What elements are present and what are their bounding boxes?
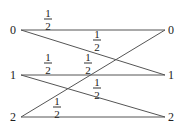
denominator: 2 [94,90,100,100]
left-node-1: 1 [10,69,16,81]
weight-label: 12 [93,29,101,52]
left-node-0: 0 [10,24,16,36]
weight-label: 12 [53,96,61,119]
left-node-2: 2 [10,111,16,123]
denominator: 2 [45,21,51,31]
right-node-1: 1 [168,69,174,81]
weight-label: 12 [44,52,52,75]
numerator: 1 [45,8,51,18]
denominator: 2 [85,65,91,75]
denominator: 2 [94,42,100,52]
numerator: 1 [45,52,51,62]
right-node-2: 2 [168,111,174,123]
numerator: 1 [94,77,100,87]
weight-label: 12 [44,8,52,31]
numerator: 1 [54,96,60,106]
numerator: 1 [85,52,91,62]
right-node-0: 0 [168,24,174,36]
weight-label: 12 [93,77,101,100]
denominator: 2 [54,109,60,119]
numerator: 1 [94,29,100,39]
weight-label: 12 [84,52,92,75]
denominator: 2 [45,65,51,75]
